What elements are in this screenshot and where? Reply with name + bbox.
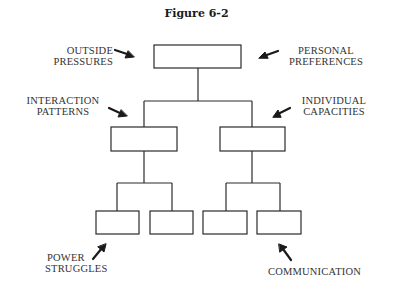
tree-diagram [0,0,393,290]
arrow-interaction-patterns-icon [109,108,127,117]
label-individual-capacities: INDIVIDUAL CAPACITIES [293,95,375,117]
figure-canvas: Figure 6-2 [0,0,393,290]
arrow-communication-icon [279,244,291,260]
label-communication-line1: COMMUNICATION [268,266,383,277]
middle-box-right [220,127,285,151]
label-interaction-patterns-line1: INTERACTION [18,95,108,106]
arrow-personal-preferences-icon [259,51,278,58]
label-outside-pressures-line1: OUTSIDE [40,45,113,56]
label-personal-preferences: PERSONAL PREFERENCES [282,45,370,67]
label-power-struggles: POWER STRUGGLES [45,252,105,274]
label-interaction-patterns: INTERACTION PATTERNS [18,95,108,117]
leaf-box-3 [203,211,247,234]
label-outside-pressures: OUTSIDE PRESSURES [40,45,113,67]
label-individual-capacities-line2: CAPACITIES [293,106,375,117]
leaf-box-2 [150,211,193,234]
leaf-box-4 [257,211,301,234]
label-power-struggles-line2: STRUGGLES [45,263,105,274]
label-outside-pressures-line2: PRESSURES [40,56,113,67]
arrow-individual-capacities-icon [273,108,290,117]
leaf-box-1 [96,211,139,234]
root-box [154,45,241,68]
label-interaction-patterns-line2: PATTERNS [18,106,108,117]
middle-box-left [111,127,177,151]
label-individual-capacities-line1: INDIVIDUAL [293,95,375,106]
label-communication: COMMUNICATION [268,266,383,277]
label-personal-preferences-line1: PERSONAL [282,45,370,56]
label-power-struggles-line1: POWER [45,252,105,263]
arrow-outside-pressures-icon [115,50,134,58]
label-personal-preferences-line2: PREFERENCES [282,56,370,67]
